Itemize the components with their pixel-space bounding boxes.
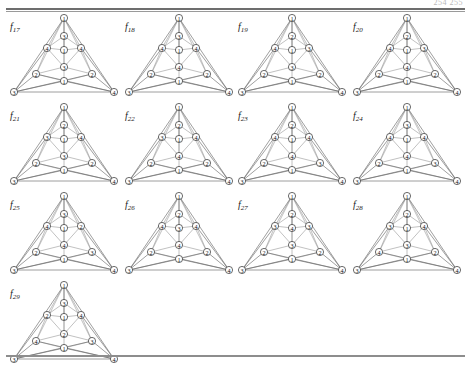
node-label-l4: 2: [262, 160, 265, 167]
node-label-bl: 3: [127, 267, 130, 274]
node-label-c3: 3: [405, 242, 408, 249]
figure-caption-f24: f24: [353, 110, 363, 123]
caption-subscript: 22: [128, 115, 135, 123]
node-label-c4: 1: [62, 78, 65, 85]
edge-c4-bl: [242, 170, 292, 181]
node-label-apex: 1: [405, 193, 408, 200]
edge-apex-br: [407, 18, 457, 92]
node-label-r2: 3: [422, 45, 425, 52]
edge-c4-br: [64, 259, 114, 270]
graph-drawing-f21: 12314321234: [6, 101, 122, 189]
node-label-br: 4: [455, 267, 458, 274]
figure-caption-f26: f26: [125, 199, 135, 212]
node-label-c3: 3: [290, 64, 293, 71]
edge-c3-r4: [179, 156, 207, 163]
node-label-l4: 2: [149, 71, 152, 78]
node-label-bl: 3: [12, 178, 15, 185]
node-label-apex: 1: [290, 15, 293, 22]
graph-drawing-f29: 13214241334: [6, 279, 122, 365]
figure-f23: f2312414421334: [234, 101, 350, 189]
edge-apex-bl: [357, 196, 407, 270]
edge-apex-br: [292, 18, 342, 92]
node-label-l2: 4: [45, 45, 48, 52]
node-label-apex: 1: [62, 193, 65, 200]
edge-c3-l4: [36, 334, 64, 341]
node-label-l2: 4: [273, 134, 276, 141]
edge-c4-br: [407, 81, 457, 92]
edge-c4-bl: [14, 81, 64, 92]
node-label-br: 4: [340, 267, 343, 274]
edge-apex-bl: [14, 285, 64, 359]
edge-c4-br: [292, 259, 342, 270]
node-label-l2: 3: [45, 134, 48, 141]
node-label-c4: 1: [177, 167, 180, 174]
node-label-l4: 2: [34, 249, 37, 256]
edge-apex-bl: [357, 18, 407, 92]
node-label-l2: 3: [273, 223, 276, 230]
node-label-br: 4: [455, 89, 458, 96]
caption-subscript: 23: [241, 115, 248, 123]
node-label-c3: 3: [62, 64, 65, 71]
node-label-apex: 1: [405, 15, 408, 22]
node-label-c1: 2: [290, 33, 293, 40]
node-label-r2: 4: [422, 134, 425, 141]
node-label-apex: 1: [62, 104, 65, 111]
figure-caption-f23: f23: [238, 110, 248, 123]
node-label-c2: 1: [62, 136, 65, 143]
node-label-c4: 1: [62, 167, 65, 174]
caption-subscript: 26: [128, 204, 135, 212]
node-label-l4: 2: [377, 71, 380, 78]
node-label-c3: 3: [62, 153, 65, 160]
node-label-l4: 2: [262, 71, 265, 78]
node-label-br: 4: [112, 89, 115, 96]
node-label-c1: 3: [405, 122, 408, 129]
node-label-l4: 2: [262, 249, 265, 256]
figure-caption-f28: f28: [353, 199, 363, 212]
edge-c3-r4: [407, 156, 435, 163]
node-label-br: 4: [455, 178, 458, 185]
node-label-l4: 4: [377, 249, 380, 256]
edge-apex-bl: [14, 196, 64, 270]
graph-drawing-f27: 12343321234: [234, 190, 350, 278]
node-label-br: 4: [340, 89, 343, 96]
graph-drawing-f25: 13412421334: [6, 190, 122, 278]
node-label-r2: 4: [194, 223, 197, 230]
figure-caption-f25: f25: [10, 199, 20, 212]
node-label-bl: 3: [240, 178, 243, 185]
node-label-r2: 4: [194, 45, 197, 52]
figure-f20: f2012413421234: [349, 12, 465, 100]
node-label-bl: 3: [355, 267, 358, 274]
node-label-l4: 4: [34, 338, 37, 345]
edge-c3-l4: [379, 67, 407, 74]
node-label-br: 4: [227, 89, 230, 96]
edge-apex-bl: [14, 18, 64, 92]
node-label-l2: 4: [273, 45, 276, 52]
edge-c4-br: [179, 170, 229, 181]
edge-apex-br: [179, 107, 229, 181]
node-label-r4: 2: [433, 71, 436, 78]
node-label-r4: 2: [205, 160, 208, 167]
node-label-l4: 2: [377, 160, 380, 167]
node-label-bl: 3: [355, 178, 358, 185]
figure-f17: f1713414321234: [6, 12, 122, 100]
node-label-r4: 2: [205, 249, 208, 256]
edge-apex-br: [179, 196, 229, 270]
node-label-c2: 1: [62, 314, 65, 321]
node-label-c3: 4: [405, 64, 408, 71]
node-label-c2: 1: [405, 136, 408, 143]
edge-c4-bl: [14, 348, 64, 359]
figure-f28: f2812314341234: [349, 190, 465, 278]
node-label-c1: 3: [62, 300, 65, 307]
top-rule: [6, 8, 465, 10]
figure-f29: f2913214241334: [6, 279, 122, 365]
node-label-r2: 4: [307, 134, 310, 141]
edge-apex-br: [292, 107, 342, 181]
node-label-c1: 3: [62, 33, 65, 40]
node-label-r4: 2: [318, 71, 321, 78]
caption-subscript: 28: [356, 204, 363, 212]
edge-apex-br: [407, 107, 457, 181]
edge-c4-br: [292, 170, 342, 181]
node-label-r4: 3: [318, 160, 321, 167]
node-label-c4: 1: [62, 345, 65, 352]
page-folio: 254 255: [434, 0, 464, 7]
